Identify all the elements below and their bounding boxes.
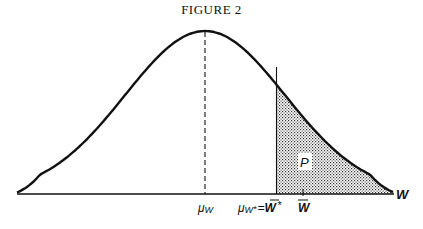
label-p: P: [300, 155, 309, 170]
label-mu-w: μW: [197, 201, 215, 215]
normal-curve-chart: P W μW μW*=W* W: [0, 0, 423, 229]
label-axis-w: W: [396, 187, 410, 202]
shaded-tail-region: [276, 84, 394, 194]
label-wbar: W: [298, 201, 311, 215]
label-mu-wstar: μW*=W*: [237, 199, 282, 215]
